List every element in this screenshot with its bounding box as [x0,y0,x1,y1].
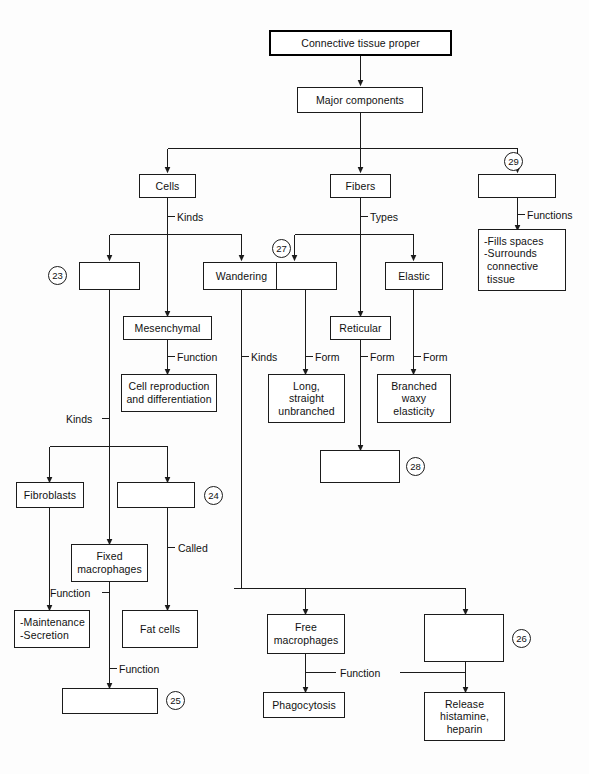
node-label: Free macrophages [274,621,339,646]
edge-label-functions-29: Functions [527,209,573,221]
blank-number-28: 28 [406,457,425,476]
node-label: Reticular [339,322,381,335]
node-line-1: Long, [278,380,334,393]
node-phagocytosis[interactable]: Phagocytosis [263,692,345,718]
blank-number-24: 24 [204,486,223,505]
node-line-1: Cell reproduction [126,380,211,393]
node-cells[interactable]: Cells [139,174,196,198]
node-blank-25[interactable] [62,688,158,714]
node-cell-reproduction[interactable]: Cell reproduction and differentiation [121,374,217,412]
edge-label-kinds-23: Kinds [66,413,92,425]
node-label: Cell reproduction and differentiation [126,380,211,405]
node-fills-spaces[interactable]: -Fills spaces -Surrounds connective tiss… [478,229,566,291]
edge-label-function-free: Function [340,667,380,679]
node-blank-24[interactable] [117,482,195,508]
edge-label-kinds-wandering: Kinds [251,351,277,363]
node-fat-cells[interactable]: Fat cells [122,610,198,648]
blank-number-29: 29 [504,152,523,171]
node-line-3: unbranched [278,405,334,418]
node-line-1: Free [274,621,339,634]
node-branched-waxy-elasticity[interactable]: Branched waxy elasticity [377,374,451,423]
node-label: Connective tissue proper [301,37,420,50]
node-label: Elastic [398,270,430,283]
node-line-4: tissue [484,273,544,286]
edge-label-function-25: Function [119,663,159,675]
node-elastic[interactable]: Elastic [385,262,443,290]
node-label: Fibroblasts [24,489,76,502]
node-label: Major components [316,94,404,107]
node-mesenchymal[interactable]: Mesenchymal [123,316,212,340]
node-line-2: straight [278,392,334,405]
node-reticular[interactable]: Reticular [330,316,391,340]
node-label: Release histamine, heparin [440,698,489,736]
node-line-3: elasticity [391,405,437,418]
node-blank-23[interactable] [79,262,140,290]
blank-number-26: 26 [512,629,531,648]
node-line-2: -Surrounds [484,247,544,260]
edge-label-called-24: Called [178,542,208,554]
blank-number-25: 25 [166,691,185,710]
node-line-2: waxy [391,392,437,405]
node-blank-28[interactable] [320,450,400,483]
node-major-components[interactable]: Major components [297,87,423,113]
edge-label-function-fixed: Function [50,587,90,599]
edge-label-form-elastic: Form [423,351,448,363]
node-line-1: Fixed [77,550,142,563]
edge-label-form-27: Form [315,351,340,363]
node-line-1: Branched [391,380,437,393]
blank-number-23: 23 [48,266,67,285]
edge-label-kinds-cells: Kinds [177,211,203,223]
node-maintenance-secretion[interactable]: -Maintenance -Secretion [14,610,90,648]
node-label: Fibers [346,180,376,193]
node-blank-29[interactable] [478,174,556,198]
node-label: Wandering [216,270,267,283]
node-free-macrophages[interactable]: Free macrophages [267,614,345,654]
concept-map-page: Connective tissue proper Major component… [0,0,589,774]
node-fibroblasts[interactable]: Fibroblasts [16,482,84,508]
node-label: -Maintenance -Secretion [20,616,85,641]
node-label: Branched waxy elasticity [391,380,437,418]
node-fixed-macrophages[interactable]: Fixed macrophages [71,544,148,582]
edge-label-types-fibers: Types [370,211,398,223]
node-connective-tissue-proper[interactable]: Connective tissue proper [269,30,452,56]
node-blank-26[interactable] [424,614,504,662]
node-label: Long, straight unbranched [278,380,334,418]
node-line-2: and differentiation [126,393,211,406]
node-label: Fat cells [140,623,180,636]
node-line-2: histamine, [440,710,489,723]
node-label: Phagocytosis [272,699,336,712]
node-fibers[interactable]: Fibers [330,174,391,198]
node-label: Mesenchymal [135,322,201,335]
edge-label-function-mesenchymal: Function [177,351,217,363]
edge-label-form-reticular: Form [370,351,395,363]
node-wandering[interactable]: Wandering [203,262,280,290]
node-line-1: Release [440,698,489,711]
node-line-3: heparin [440,723,489,736]
node-line-2: -Secretion [20,629,85,642]
node-label: -Fills spaces -Surrounds connective tiss… [484,235,544,285]
node-release-histamine-heparin[interactable]: Release histamine, heparin [424,692,505,741]
node-label: Fixed macrophages [77,550,142,575]
node-line-1: -Maintenance [20,616,85,629]
node-label: Cells [156,180,180,193]
node-line-2: macrophages [77,563,142,576]
node-line-1: -Fills spaces [484,235,544,248]
node-line-2: macrophages [274,634,339,647]
blank-number-27: 27 [272,239,291,258]
node-line-3: connective [484,260,544,273]
node-long-straight-unbranched[interactable]: Long, straight unbranched [268,374,345,423]
node-blank-27[interactable] [276,262,337,290]
